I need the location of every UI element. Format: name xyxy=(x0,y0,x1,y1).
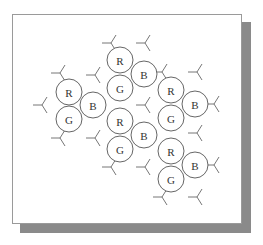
subpixel-label: G xyxy=(65,114,73,126)
y-connector-icon xyxy=(51,130,65,146)
y-connector-icon xyxy=(33,97,47,113)
triad-2: RBG xyxy=(107,47,157,101)
y-connector-icon xyxy=(188,125,202,141)
triad-4: RBG xyxy=(107,108,157,162)
subpixel-label: G xyxy=(116,83,124,95)
y-connector-icon xyxy=(86,130,100,146)
subpixel-label: B xyxy=(191,99,198,111)
y-connector-icon xyxy=(136,159,150,175)
subpixel-label: R xyxy=(116,116,124,128)
y-connector-icon xyxy=(102,159,116,175)
triad-layer: RBGRBGRBGRBGRBG xyxy=(56,47,208,192)
rgb-triad-diagram: RBGRBGRBGRBGRBG xyxy=(0,0,263,245)
y-connector-icon xyxy=(188,189,202,205)
subpixel-label: B xyxy=(89,100,96,112)
y-connector-icon xyxy=(136,35,150,51)
subpixel-label: R xyxy=(167,146,175,158)
subpixel-label: G xyxy=(167,113,175,125)
subpixel-label: R xyxy=(65,87,73,99)
subpixel-label: R xyxy=(167,85,175,97)
subpixel-label: G xyxy=(116,144,124,156)
subpixel-label: B xyxy=(140,130,147,142)
subpixel-label: B xyxy=(140,69,147,81)
triad-5: RBG xyxy=(158,138,208,192)
subpixel-label: R xyxy=(116,55,124,67)
subpixel-label: B xyxy=(191,160,198,172)
y-connector-icon xyxy=(51,65,65,81)
y-connector-icon xyxy=(153,189,167,205)
y-connector-icon xyxy=(86,67,100,83)
triad-3: RBG xyxy=(158,77,208,131)
y-connector-icon xyxy=(136,97,150,113)
triad-1: RBG xyxy=(56,79,106,132)
y-connector-icon xyxy=(188,64,202,80)
subpixel-label: G xyxy=(167,174,175,186)
